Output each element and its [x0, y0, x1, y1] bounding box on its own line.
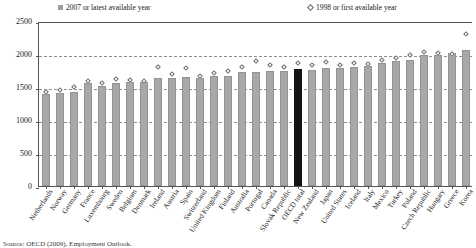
- legend-label-2007: 2007 or latest available year: [66, 3, 151, 12]
- bar[interactable]: [196, 78, 205, 186]
- legend-label-1998: 1998 or first available year: [316, 3, 397, 12]
- diamond-marker-icon: [57, 87, 63, 93]
- bar-group[interactable]: [196, 21, 205, 186]
- y-axis-tick-label: 0: [0, 183, 32, 191]
- bar[interactable]: [420, 55, 429, 186]
- working-hours-bar-chart: 2007 or latest available year 1998 or fi…: [0, 0, 476, 248]
- bar-group[interactable]: [98, 21, 107, 186]
- y-axis-tick-label: 1000: [0, 117, 32, 125]
- diamond-marker-icon: [169, 71, 175, 77]
- bar-group[interactable]: [252, 21, 261, 186]
- legend-entry-2007: 2007 or latest available year: [58, 3, 151, 12]
- bar-group[interactable]: [378, 21, 387, 186]
- y-axis-tick-label: 2000: [0, 51, 32, 59]
- diamond-marker-icon: [113, 76, 119, 82]
- diamond-marker-icon: [155, 64, 161, 70]
- diamond-marker-icon: [309, 62, 315, 68]
- diamond-marker-icon: [281, 64, 287, 70]
- bar-group[interactable]: [266, 21, 275, 186]
- bar-group[interactable]: [406, 21, 415, 186]
- diamond-marker-icon: [337, 62, 343, 68]
- bar-group[interactable]: [168, 21, 177, 186]
- bar-group[interactable]: [294, 21, 303, 186]
- diamond-marker-icon: [307, 4, 314, 11]
- legend-entry-1998: 1998 or first available year: [308, 3, 397, 12]
- bar[interactable]: [406, 60, 415, 186]
- bar-group[interactable]: [154, 21, 163, 186]
- diamond-marker-icon: [239, 64, 245, 70]
- bar-group[interactable]: [350, 21, 359, 186]
- diamond-marker-icon: [71, 84, 77, 90]
- diamond-marker-icon: [99, 80, 105, 86]
- y-axis-tick-label: 2500: [0, 18, 32, 26]
- bar[interactable]: [378, 63, 387, 186]
- x-axis-category-labels: NetherlandsNorwayGermanyFranceLuxembourg…: [38, 188, 472, 246]
- bar-group[interactable]: [280, 21, 289, 186]
- bar-group[interactable]: [56, 21, 65, 186]
- diamond-marker-icon: [183, 65, 189, 71]
- diamond-marker-icon: [267, 62, 273, 68]
- bar-group[interactable]: [210, 21, 219, 186]
- bar-group[interactable]: [392, 21, 401, 186]
- diamond-marker-icon: [225, 68, 231, 74]
- diamond-marker-icon: [351, 60, 357, 66]
- diamond-marker-icon: [393, 55, 399, 61]
- y-axis-tick-label: 1500: [0, 84, 32, 92]
- diamond-marker-icon: [323, 59, 329, 65]
- plot-area: [38, 22, 472, 187]
- source-note: Source: OECD (2009), Employment Outlook.: [3, 240, 132, 248]
- bar-group[interactable]: [84, 21, 93, 186]
- bar-group[interactable]: [112, 21, 121, 186]
- y-axis-tick-label: 500: [0, 150, 32, 158]
- bar-group[interactable]: [462, 21, 471, 186]
- diamond-marker-icon: [253, 58, 259, 64]
- diamond-marker-icon: [463, 31, 469, 37]
- bar-group[interactable]: [420, 21, 429, 186]
- chart-legend: 2007 or latest available year 1998 or fi…: [0, 2, 476, 16]
- square-marker-icon: [58, 5, 63, 10]
- bar-group[interactable]: [42, 21, 51, 186]
- diamond-marker-icon: [421, 49, 427, 55]
- bar-group[interactable]: [140, 21, 149, 186]
- bar[interactable]: [462, 50, 471, 186]
- bar[interactable]: [42, 94, 51, 186]
- bar-group[interactable]: [182, 21, 191, 186]
- bar[interactable]: [392, 61, 401, 186]
- diamond-marker-icon: [407, 52, 413, 58]
- bar-series: [39, 23, 472, 186]
- bar-group[interactable]: [434, 21, 443, 186]
- diamond-marker-icon: [295, 60, 301, 66]
